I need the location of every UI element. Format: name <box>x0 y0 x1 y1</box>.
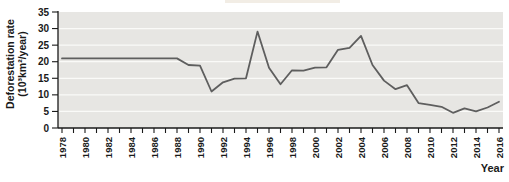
y-tick-label: 20 <box>38 56 50 67</box>
y-axis-title-line1: Deforestation rate <box>4 19 16 109</box>
x-tick-label: 1994 <box>241 136 252 158</box>
x-tick-label: 2010 <box>425 137 436 158</box>
x-tick-label: 1988 <box>172 137 183 158</box>
x-tick-label: 2006 <box>379 137 390 158</box>
x-tick-label: 2002 <box>333 137 344 158</box>
x-tick-label: 2004 <box>356 136 367 158</box>
x-tick-label: 1980 <box>80 137 91 158</box>
x-tick-label: 1982 <box>103 137 114 158</box>
x-tick-label: 1996 <box>264 137 275 158</box>
x-tick-label: 1984 <box>126 136 137 158</box>
x-tick-label: 2000 <box>310 137 321 158</box>
x-tick-label: 2008 <box>402 137 413 158</box>
y-tick-label: 15 <box>38 73 50 84</box>
deforestation-line-chart: 0510152025303519781980198219841986198819… <box>0 0 509 182</box>
y-tick-label: 35 <box>38 7 50 18</box>
x-tick-label: 2014 <box>471 136 482 158</box>
cropped-highlight-bar <box>225 0 340 3</box>
plot-panel <box>58 12 503 128</box>
y-axis-title-line2: (10³km²/year) <box>16 19 28 109</box>
x-tick-label: 1986 <box>149 137 160 158</box>
x-tick-label: 1998 <box>287 137 298 158</box>
y-tick-label: 10 <box>38 89 50 100</box>
y-tick-label: 5 <box>43 106 49 117</box>
y-tick-label: 0 <box>43 123 49 134</box>
y-tick-label: 30 <box>38 23 50 34</box>
y-tick-label: 25 <box>38 40 50 51</box>
y-axis-title: Deforestation rate (10³km²/year) <box>4 19 29 109</box>
x-axis-title: Year <box>481 162 504 174</box>
x-tick-label: 1990 <box>195 137 206 158</box>
chart-figure: 0510152025303519781980198219841986198819… <box>0 0 509 182</box>
x-tick-label: 2012 <box>448 137 459 158</box>
x-tick-label: 1992 <box>218 137 229 158</box>
x-tick-label: 2016 <box>494 137 505 158</box>
x-tick-label: 1978 <box>57 137 68 158</box>
